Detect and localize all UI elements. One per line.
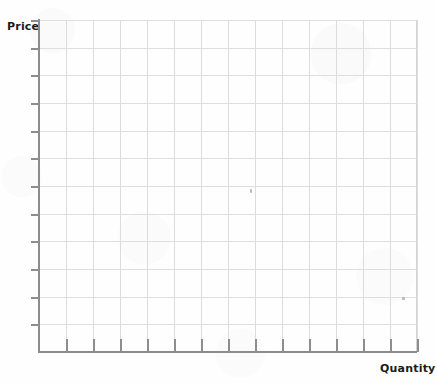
y-axis-tick [31,297,40,299]
y-axis-tick [31,186,40,188]
grid-line-vertical [417,20,418,352]
y-axis-tick [31,241,40,243]
x-axis-tick [417,339,419,352]
x-axis-tick [282,339,284,352]
x-axis-tick [309,339,311,352]
grid-line-horizontal [39,131,417,132]
y-axis-tick [31,214,40,216]
x-axis-tick [390,339,392,352]
y-axis-tick [31,48,40,50]
grid-line-horizontal [39,103,417,104]
x-axis-tick [147,339,149,352]
plot-area[interactable] [39,20,417,352]
grid-line-horizontal [39,48,417,49]
grid-line-horizontal [39,269,417,270]
grid-line-horizontal [39,75,417,76]
x-axis-tick [93,339,95,352]
y-axis-tick [31,269,40,271]
grid-line-horizontal [39,324,417,325]
grid-line-horizontal [39,297,417,298]
x-axis-tick [201,339,203,352]
x-axis-tick [66,339,68,352]
grid-line-horizontal [39,186,417,187]
grid-line-horizontal [39,214,417,215]
x-axis-tick [363,339,365,352]
y-axis-tick [31,324,40,326]
x-axis-tick [120,339,122,352]
y-axis-tick [31,131,40,133]
x-axis-label: Quantity [380,362,436,375]
y-axis-tick [31,103,40,105]
grid-line-horizontal [39,241,417,242]
y-axis-tick [31,20,40,22]
grid-line-horizontal [39,158,417,159]
x-axis-tick [255,339,257,352]
x-axis-tick [336,339,338,352]
x-axis-tick [174,339,176,352]
worksheet-page: Price Quantity [0,0,437,384]
grid-line-horizontal [39,20,417,21]
y-axis-tick [31,158,40,160]
x-axis-tick [228,339,230,352]
y-axis-tick [31,75,40,77]
